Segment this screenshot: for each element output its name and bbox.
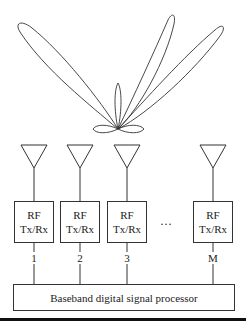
txrx-label: Tx/Rx: [20, 222, 48, 236]
baseband-label: Baseband digital signal processor: [50, 292, 198, 304]
txrx-label: Tx/Rx: [66, 222, 94, 236]
diagram-graphics: [0, 0, 246, 327]
rf-label: RF: [27, 208, 40, 222]
antenna-icon: [21, 145, 47, 168]
rf-transceiver-box-3: RF Tx/Rx: [107, 201, 147, 243]
txrx-label: Tx/Rx: [113, 222, 141, 236]
rf-transceiver-box-2: RF Tx/Rx: [60, 201, 100, 243]
right-main-lobe: [118, 26, 223, 129]
beam-pattern: [18, 15, 223, 133]
baseband-processor-box: Baseband digital signal processor: [13, 284, 235, 311]
channel-label-1: 1: [27, 252, 41, 264]
antenna-icon: [200, 145, 226, 168]
ellipsis: …: [155, 214, 177, 229]
channel-label-2: 2: [73, 252, 87, 264]
antenna-icon: [114, 145, 140, 168]
rf-transceiver-box-1: RF Tx/Rx: [14, 201, 54, 243]
bottom-rule: [0, 318, 246, 321]
rf-transceiver-box-m: RF Tx/Rx: [193, 201, 233, 243]
txrx-label: Tx/Rx: [199, 222, 227, 236]
rf-label: RF: [73, 208, 86, 222]
channel-label-m: M: [206, 252, 220, 264]
beamforming-diagram: RF Tx/Rx RF Tx/Rx RF Tx/Rx RF Tx/Rx … 1 …: [0, 0, 246, 327]
antenna-icon: [67, 145, 93, 168]
channel-label-3: 3: [120, 252, 134, 264]
left-main-lobe: [18, 23, 118, 129]
rf-label: RF: [120, 208, 133, 222]
vertical-side-lobe: [115, 83, 121, 129]
rf-label: RF: [206, 208, 219, 222]
center-main-lobe: [118, 15, 175, 129]
